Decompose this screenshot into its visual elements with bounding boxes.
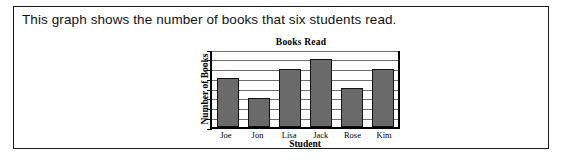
plot-area: [210, 51, 400, 129]
bar-jon: [248, 98, 270, 127]
bar-chart: Books Read Number of Books JoeJonLisaJac…: [192, 37, 410, 149]
bar-series: [212, 51, 398, 127]
question-container: This graph shows the number of books tha…: [13, 6, 549, 149]
bar-jack: [310, 59, 332, 127]
x-axis-label: Student: [210, 139, 400, 149]
bar-lisa: [279, 69, 301, 128]
prompt-text: This graph shows the number of books tha…: [22, 12, 396, 27]
bar-rose: [341, 88, 363, 127]
screenshot-root: This graph shows the number of books tha…: [0, 0, 563, 168]
bar-kim: [372, 69, 394, 128]
chart-title: Books Read: [192, 37, 410, 47]
bar-joe: [217, 78, 239, 127]
